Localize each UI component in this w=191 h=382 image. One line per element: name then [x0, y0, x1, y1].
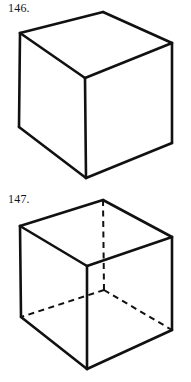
cube-147-edge-top-back-right — [103, 200, 172, 237]
cube-147-edge-bottom-left — [21, 317, 87, 369]
cube-147-edge-top-front-left — [20, 226, 87, 266]
figure-147: 147. — [0, 191, 191, 382]
cube-147-hidden-edge-bottom-back-left — [21, 290, 104, 317]
worksheet-page: 146. 147. — [0, 0, 191, 382]
figure-146-drawing — [0, 0, 191, 191]
cube-147-hidden-edge-vertical-back — [103, 200, 104, 290]
cube-146-edge-vertical-left — [19, 33, 20, 127]
figure-146: 146. — [0, 0, 191, 191]
cube-146-edge-vertical-front — [85, 78, 86, 178]
cube-147-edge-bottom-right — [87, 330, 172, 369]
cube-147-hidden-edge-bottom-back-right — [104, 290, 172, 330]
cube-147-edge-top-front-right — [87, 237, 172, 266]
cube-147-edge-vertical-left — [20, 226, 21, 317]
cube-147-edge-top-back-left — [20, 200, 103, 226]
figure-147-drawing — [0, 191, 191, 382]
